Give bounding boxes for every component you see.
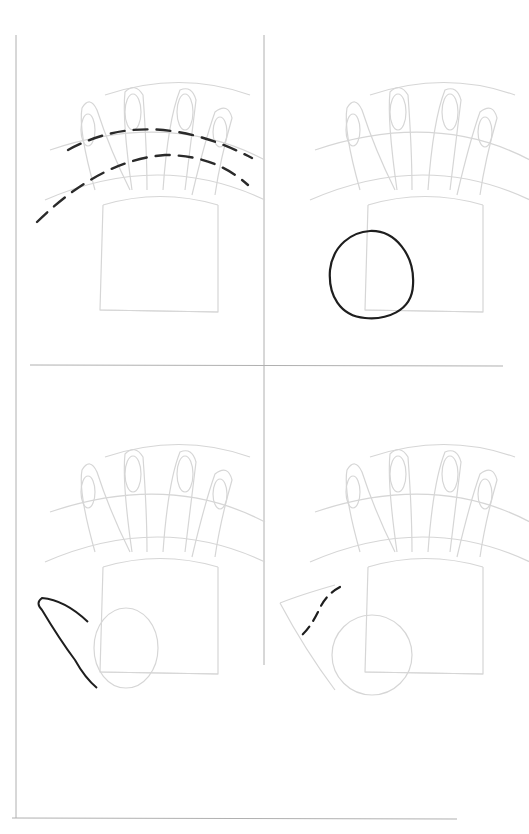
panel-step-3 <box>39 445 266 689</box>
thumb-joint-dashed <box>302 587 340 635</box>
panel-step-1 <box>37 83 265 313</box>
thumb-circle <box>330 231 413 318</box>
panel-step-2 <box>310 83 529 319</box>
thumb-outline <box>39 598 98 688</box>
panel-step-4 <box>280 445 529 696</box>
tutorial-page <box>0 0 529 834</box>
